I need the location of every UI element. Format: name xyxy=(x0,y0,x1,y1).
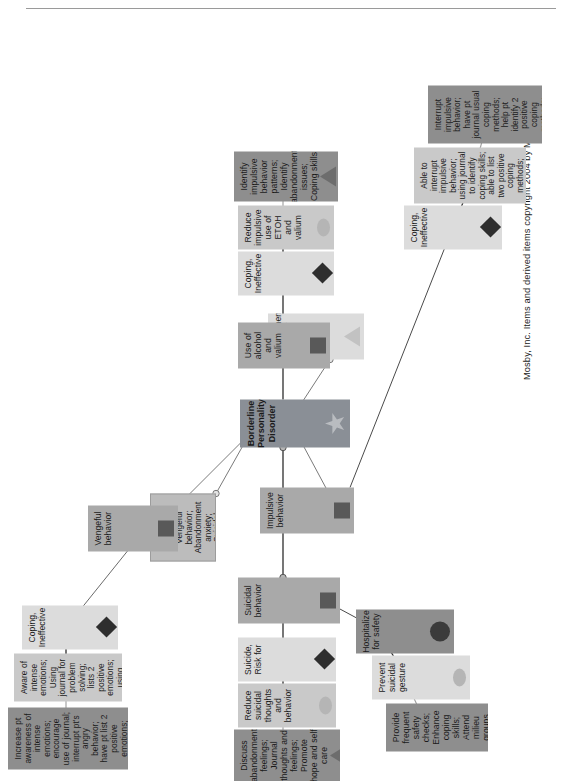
outcome-label: Reduce impulsive use of ETOH and valium xyxy=(244,209,304,245)
square-icon xyxy=(310,337,326,353)
triangle-icon xyxy=(320,166,336,186)
intervention-label: Identify impulsive behavior patterns; Id… xyxy=(240,151,320,201)
diamond-icon xyxy=(480,216,501,237)
ellipse-icon xyxy=(317,218,330,236)
intervention-node-identify-impulsive-patterns[interactable]: Identify impulsive behavior patterns; Id… xyxy=(234,151,338,201)
diagnosis-label: Hospitalize for safety xyxy=(362,610,382,653)
intervention-node-discuss-abandonment-feelings[interactable]: Discuss abandonment feelings; Journal th… xyxy=(234,729,340,781)
outcome-node-reduce-impulsive-use[interactable]: Reduce impulsive use of ETOH and valium xyxy=(238,205,334,249)
outcome-label: Reduce suicidal thoughts and behavior xyxy=(244,687,294,723)
problem-node-use-of-alcohol-and-valium[interactable]: Use of alcohol and valium xyxy=(238,322,330,368)
triangle-icon xyxy=(330,745,340,765)
square-icon xyxy=(320,592,336,608)
outcome-node-prevent-suicidal-gesture[interactable]: Prevent suicidal gesture xyxy=(372,655,470,699)
diagnosis-node-suicide-risk-for[interactable]: Suicide, Risk for xyxy=(238,637,336,681)
center-node-borderline-personality-disorder[interactable]: Borderline Personality Disorder xyxy=(240,399,350,447)
problem-node-suicidal-behavior[interactable]: Suicidal behavior xyxy=(238,577,340,623)
square-icon xyxy=(158,520,174,536)
intervention-node-increase-pt-awareness[interactable]: Increase pt awareness of intense emotion… xyxy=(8,707,128,769)
intervention-label: Provide frequent safety checks; Enhance … xyxy=(392,707,488,747)
diagnosis-node-coping-ineffective-substance[interactable]: Coping, Ineffective xyxy=(238,251,334,295)
outcome-label: Prevent suicidal gesture xyxy=(378,659,408,695)
ellipse-icon xyxy=(453,668,466,686)
problem-label: Vengeful behavior xyxy=(94,509,114,547)
triangle-light-icon xyxy=(344,326,360,346)
diagnosis-label: Coping, Ineffective xyxy=(28,607,48,647)
intervention-label: Discuss abandonment feelings; Journal th… xyxy=(240,729,330,781)
diagnosis-node-hospitalize-for-safety[interactable]: Hospitalize for safety xyxy=(356,609,454,653)
center-node-label: Borderline Personality Disorder xyxy=(246,399,277,447)
diagnosis-label: Suicide, Risk for xyxy=(244,641,264,677)
problem-label: Use of alcohol and valium xyxy=(244,326,284,364)
outcome-node-reduce-suicidal-thoughts[interactable]: Reduce suicidal thoughts and behavior xyxy=(238,683,336,727)
diagnosis-label: Coping, Ineffective xyxy=(410,207,430,247)
problem-label: Impulsive behavior xyxy=(266,491,286,529)
outcome-label: Aware of intense emotions; Using journal… xyxy=(20,655,122,700)
diagnosis-node-coping-ineffective-emotions[interactable]: Coping, Ineffective xyxy=(22,605,118,649)
ellipse-icon xyxy=(319,696,332,714)
intervention-label: Increase pt awareness of intense emotion… xyxy=(14,711,128,765)
problem-node-vengeful-behavior[interactable]: Vengeful behavior xyxy=(88,505,178,551)
diagnosis-label: Coping, Ineffective xyxy=(244,253,264,293)
outcome-node-able-to-interrupt-impulsive-behavior[interactable]: Able to interrupt impulsive behavior; us… xyxy=(414,147,526,203)
outcome-node-aware-of-intense-emotions[interactable]: Aware of intense emotions; Using journal… xyxy=(14,653,122,701)
problem-node-impulsive-behavior[interactable]: Impulsive behavior xyxy=(260,487,354,533)
intervention-label: Interrupt impulsive behavior; have pt jo… xyxy=(434,89,542,139)
circle-icon xyxy=(430,621,450,641)
problem-label: Suicidal behavior xyxy=(244,581,264,619)
intervention-node-provide-frequent-safety-checks[interactable]: Provide frequent safety checks; Enhance … xyxy=(386,703,488,751)
diamond-icon xyxy=(314,648,335,669)
outcome-label: Able to interrupt impulsive behavior; us… xyxy=(420,151,526,199)
square-icon xyxy=(334,502,350,518)
diagnosis-node-coping-ineffective-impulse[interactable]: Coping, Ineffective xyxy=(404,205,502,249)
intervention-node-interrupt-impulsive-behavior[interactable]: Interrupt impulsive behavior; have pt jo… xyxy=(428,85,542,143)
star-icon xyxy=(325,412,346,434)
diamond-icon xyxy=(96,616,117,637)
diamond-icon xyxy=(312,262,333,283)
